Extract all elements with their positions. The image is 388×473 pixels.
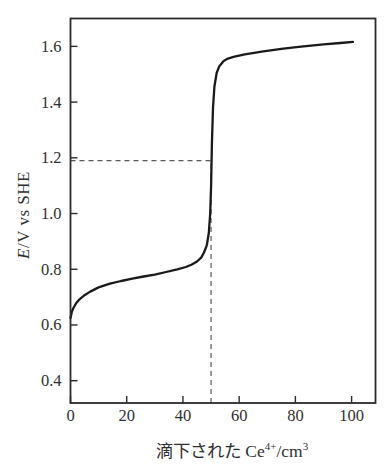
titration-chart-svg: 020406080100 0.40.60.81.01.21.41.6 [0, 0, 388, 473]
x-axis-title-prefix: 滴下された Ce [156, 441, 265, 461]
plot-frame-group [71, 19, 376, 404]
y-tick-label: 0.4 [41, 371, 62, 390]
x-tick-labels-group: 020406080100 [66, 406, 364, 425]
x-axis-title-units: /cm [276, 441, 302, 461]
x-axis-title-superscript-charge: 4+ [265, 440, 277, 452]
plot-frame [71, 19, 376, 404]
titration-figure: 020406080100 0.40.60.81.01.21.41.6 E/V v… [0, 0, 388, 473]
x-tick-label: 40 [175, 406, 192, 425]
x-tick-label: 60 [231, 406, 248, 425]
y-tick-label: 1.2 [41, 148, 62, 167]
x-axis-title-superscript-cubed: 3 [303, 440, 309, 452]
y-ticks-group [71, 46, 78, 380]
y-tick-label: 0.6 [41, 315, 62, 334]
titration-curve [71, 42, 354, 318]
x-axis-title: 滴下された Ce4+/cm3 [156, 437, 308, 462]
x-tick-label: 100 [339, 406, 364, 425]
x-tick-label: 0 [66, 406, 74, 425]
x-tick-label: 80 [287, 406, 304, 425]
y-tick-label: 1.0 [41, 204, 62, 223]
y-tick-label: 0.8 [41, 260, 62, 279]
y-axis-title: E/V vs SHE [14, 171, 34, 259]
y-axis-title-units: /V vs SHE [14, 171, 33, 248]
y-axis-title-symbol: E [14, 248, 33, 259]
y-tick-label: 1.4 [41, 93, 62, 112]
curve-group [71, 42, 354, 318]
annotation-dashed-lines [71, 161, 212, 403]
y-tick-label: 1.6 [41, 37, 62, 56]
x-tick-label: 20 [118, 406, 135, 425]
y-tick-labels-group: 0.40.60.81.01.21.41.6 [41, 37, 62, 390]
